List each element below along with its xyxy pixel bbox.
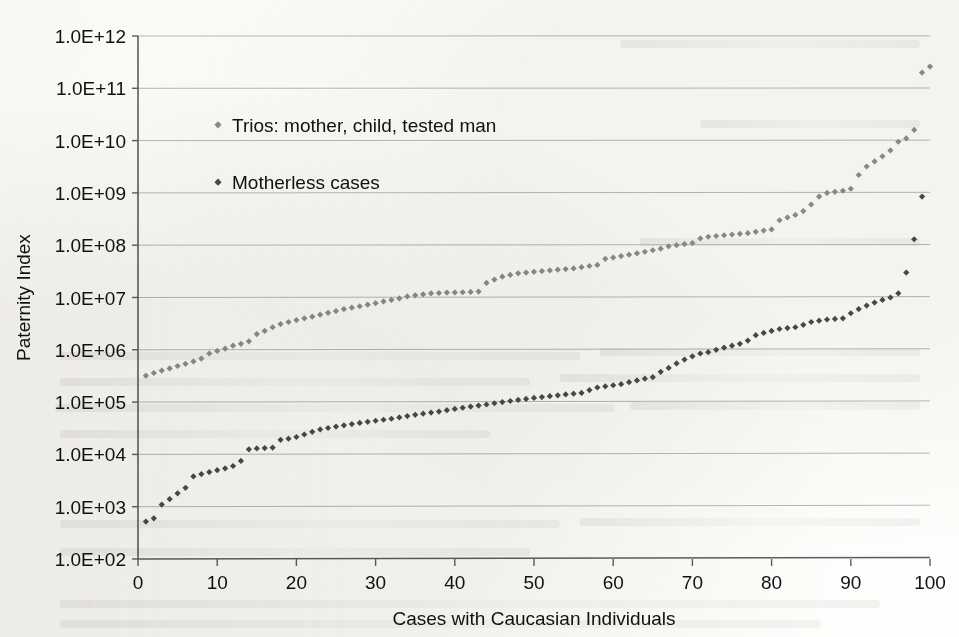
data-point — [626, 252, 632, 258]
data-point — [206, 350, 212, 356]
series-trios — [143, 63, 933, 378]
data-point — [792, 324, 798, 330]
data-point — [396, 295, 402, 301]
data-point — [151, 370, 157, 376]
legend-entry-1[interactable]: Motherless cases — [214, 172, 379, 193]
series-motherless — [143, 193, 925, 524]
data-point — [475, 402, 481, 408]
data-point — [444, 407, 450, 413]
data-point — [547, 393, 553, 399]
diamond-marker — [214, 179, 221, 186]
data-point — [523, 269, 529, 275]
data-point — [539, 268, 545, 274]
data-point — [642, 376, 648, 382]
y-tick-label: 1.0E+02 — [55, 549, 126, 570]
y-axis-title: Paternity Index — [13, 234, 34, 361]
x-axis-title: Cases with Caucasian Individuals — [392, 608, 675, 629]
legend-label: Motherless cases — [232, 172, 380, 193]
data-point — [769, 226, 775, 232]
gridline-horizontal — [138, 297, 930, 298]
data-point — [666, 243, 672, 249]
data-point — [222, 346, 228, 352]
data-point — [871, 158, 877, 164]
data-point — [507, 398, 513, 404]
data-point — [293, 317, 299, 323]
x-tick-label: 60 — [603, 572, 624, 593]
data-point — [277, 437, 283, 443]
data-point — [578, 390, 584, 396]
data-point — [689, 240, 695, 246]
x-tick-label: 10 — [207, 572, 228, 593]
data-point — [507, 272, 513, 278]
data-point — [594, 262, 600, 268]
data-point — [586, 387, 592, 393]
data-point — [618, 253, 624, 259]
data-point — [697, 235, 703, 241]
data-point — [911, 236, 917, 242]
data-point — [824, 190, 830, 196]
data-point — [468, 289, 474, 295]
data-point — [721, 345, 727, 351]
data-point — [713, 347, 719, 353]
data-point — [151, 515, 157, 521]
data-point — [800, 208, 806, 214]
data-point — [238, 341, 244, 347]
data-point — [428, 290, 434, 296]
data-point — [404, 293, 410, 299]
data-point — [349, 421, 355, 427]
data-point — [444, 290, 450, 296]
data-point — [365, 419, 371, 425]
data-point — [919, 193, 925, 199]
paternity-index-scatter-chart: 1.0E+021.0E+031.0E+041.0E+051.0E+061.0E+… — [0, 0, 959, 637]
data-point — [769, 328, 775, 334]
data-point — [238, 458, 244, 464]
data-point — [737, 231, 743, 237]
data-point — [214, 348, 220, 354]
y-tick-label: 1.0E+09 — [55, 183, 126, 204]
data-point — [254, 445, 260, 451]
x-tick-label: 50 — [523, 572, 544, 593]
data-point — [571, 391, 577, 397]
data-point — [792, 212, 798, 218]
data-point — [650, 247, 656, 253]
data-point — [380, 417, 386, 423]
data-point — [198, 471, 204, 477]
legend-entry-0[interactable]: Trios: mother, child, tested man — [214, 115, 496, 136]
data-point — [776, 217, 782, 223]
x-tick-label: 100 — [914, 572, 946, 593]
data-point — [483, 401, 489, 407]
data-point — [729, 231, 735, 237]
data-point — [468, 404, 474, 410]
data-point — [325, 310, 331, 316]
data-point — [285, 319, 291, 325]
data-point — [919, 69, 925, 75]
data-point — [388, 416, 394, 422]
x-tick-label: 0 — [133, 572, 144, 593]
data-point — [483, 280, 489, 286]
data-point — [436, 290, 442, 296]
data-point — [491, 276, 497, 282]
data-point — [515, 397, 521, 403]
data-point — [784, 325, 790, 331]
x-tick-label: 80 — [761, 572, 782, 593]
data-point — [460, 405, 466, 411]
data-point — [761, 228, 767, 234]
data-point — [167, 496, 173, 502]
data-point — [531, 269, 537, 275]
data-point — [895, 290, 901, 296]
data-point — [143, 518, 149, 524]
data-point — [563, 391, 569, 397]
x-tick-label: 70 — [682, 572, 703, 593]
data-point — [373, 300, 379, 306]
data-point — [784, 214, 790, 220]
data-point — [871, 299, 877, 305]
data-point — [713, 233, 719, 239]
data-point — [848, 186, 854, 192]
y-tick-label: 1.0E+08 — [55, 235, 126, 256]
data-point — [357, 303, 363, 309]
data-point — [887, 294, 893, 300]
data-point — [254, 331, 260, 337]
data-point — [927, 63, 933, 69]
data-point — [816, 193, 822, 199]
data-point — [800, 322, 806, 328]
